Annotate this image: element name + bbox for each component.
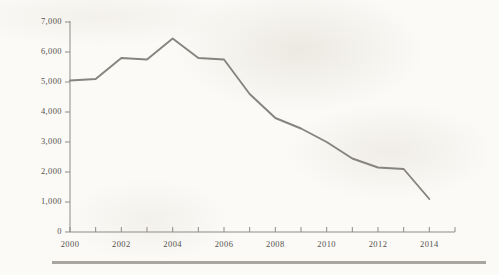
x-tick-label: 2006 (204, 239, 244, 249)
y-tick-label: 1,000 (8, 196, 62, 206)
bottom-divider-rule (52, 261, 486, 264)
y-tick-label: 2,000 (8, 166, 62, 176)
line-chart-plot (0, 0, 499, 275)
y-tick-label: 5,000 (8, 76, 62, 86)
y-tick-label: 0 (8, 226, 62, 236)
x-tick-label: 2010 (307, 239, 347, 249)
x-tick-label: 2002 (101, 239, 141, 249)
x-tick-label: 2004 (153, 239, 193, 249)
y-tick-label: 7,000 (8, 16, 62, 26)
x-tick-label: 2014 (409, 239, 449, 249)
chart-page: 01,0002,0003,0004,0005,0006,0007,0002000… (0, 0, 499, 275)
x-axis (70, 227, 455, 232)
y-tick-label: 3,000 (8, 136, 62, 146)
y-axis (65, 21, 70, 232)
data-line-group (70, 39, 429, 200)
x-tick-label: 2000 (50, 239, 90, 249)
data-line (70, 39, 429, 200)
x-tick-label: 2008 (255, 239, 295, 249)
y-tick-label: 4,000 (8, 106, 62, 116)
y-tick-label: 6,000 (8, 46, 62, 56)
x-tick-label: 2012 (358, 239, 398, 249)
